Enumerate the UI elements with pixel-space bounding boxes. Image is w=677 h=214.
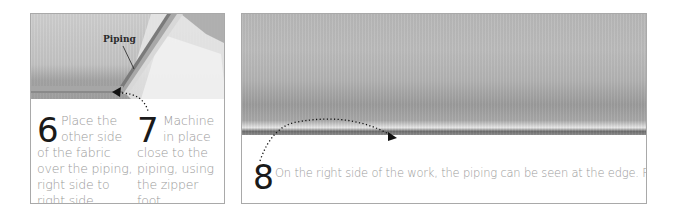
step-7-text-rest: close to the piping, using the zipper fo… [137,145,225,204]
step-7-text-first: Machine in place [163,113,223,145]
step-6-text-rest: of the fabric over the piping, right sid… [37,145,137,204]
piping-label: Piping [103,34,136,44]
step-number-8: 8 [253,161,274,194]
fabric-illustration [31,14,224,99]
step-number-7: 7 [137,113,159,147]
step-8-text: On the right side of the work, the pipin… [275,165,647,181]
step-panel-6-7: Piping 6 Place the other side of the fab… [30,13,225,204]
step-panel-8: 8 On the right side of the work, the pip… [241,13,647,204]
step-6-text-first: Place the other side [61,113,131,145]
step-6-7-photo: Piping [31,14,224,99]
step-8-photo [242,14,646,135]
step-number-6: 6 [37,113,59,147]
